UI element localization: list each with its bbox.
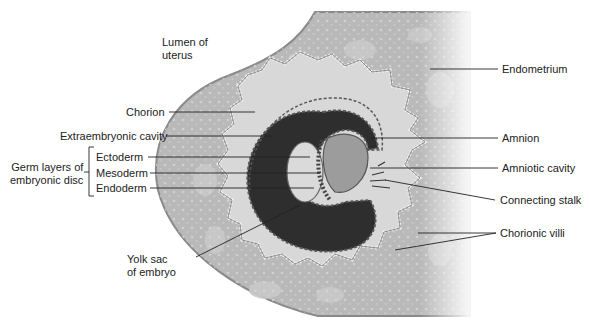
label-endometrium: Endometrium (502, 63, 567, 76)
label-endoderm: Endoderm (96, 182, 147, 195)
label-line: embryonic disc (10, 174, 83, 187)
implanted-embryo-diagram (0, 0, 589, 327)
label-extraembryonic-cavity: Extraembryonic cavity (60, 130, 168, 143)
label-ectoderm: Ectoderm (96, 151, 143, 164)
label-connecting-stalk: Connecting stalk (500, 194, 581, 207)
label-line: Germ layers of (10, 161, 83, 174)
label-line: of embryo (127, 266, 176, 279)
label-lumen-of-uterus: Lumen of uterus (162, 36, 208, 62)
label-line: uterus (162, 49, 208, 62)
label-yolk-sac: Yolk sac of embryo (127, 253, 176, 279)
label-chorion: Chorion (126, 106, 165, 119)
label-chorionic-villi: Chorionic villi (500, 227, 565, 240)
label-germ-layers: Germ layers of embryonic disc (10, 161, 83, 187)
label-amniotic-cavity: Amniotic cavity (502, 162, 575, 175)
label-amnion: Amnion (502, 132, 539, 145)
label-line: Lumen of (162, 36, 208, 49)
label-line: Yolk sac (127, 253, 176, 266)
label-mesoderm: Mesoderm (96, 167, 148, 180)
